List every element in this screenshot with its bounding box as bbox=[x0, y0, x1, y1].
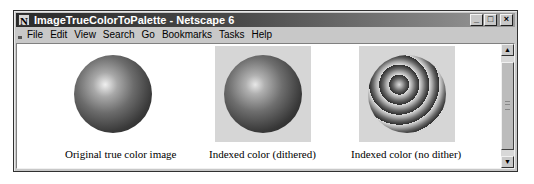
browser-window: N ImageTrueColorToPalette - Netscape 6 _… bbox=[13, 10, 518, 172]
no-dither-image bbox=[359, 46, 455, 142]
sphere-true-color bbox=[74, 55, 152, 133]
original-image bbox=[65, 46, 161, 142]
scroll-down-button[interactable]: ▼ bbox=[501, 156, 514, 168]
sphere-dithered bbox=[224, 55, 302, 133]
menu-edit[interactable]: Edit bbox=[50, 28, 67, 41]
menu-search[interactable]: Search bbox=[103, 28, 135, 41]
menu-bookmarks[interactable]: Bookmarks bbox=[162, 28, 212, 41]
caption-no-dither: Indexed color (no dither) bbox=[351, 148, 461, 160]
maximize-button[interactable]: □ bbox=[484, 14, 497, 26]
title-bar[interactable]: N ImageTrueColorToPalette - Netscape 6 _… bbox=[16, 13, 515, 27]
caption-dithered: Indexed color (dithered) bbox=[209, 148, 316, 160]
menubar-grip-icon[interactable] bbox=[18, 36, 22, 39]
menu-tasks[interactable]: Tasks bbox=[219, 28, 245, 41]
menu-go[interactable]: Go bbox=[142, 28, 155, 41]
window-title: ImageTrueColorToPalette - Netscape 6 bbox=[34, 13, 234, 27]
caption-original: Original true color image bbox=[65, 148, 177, 160]
sphere-no-dither bbox=[368, 55, 446, 133]
menu-help[interactable]: Help bbox=[251, 28, 272, 41]
thumb-grip-icon bbox=[505, 101, 510, 110]
page-content: Original true color image Indexed color … bbox=[16, 43, 515, 169]
menu-file[interactable]: File bbox=[27, 28, 43, 41]
menu-bar: File Edit View Search Go Bookmarks Tasks… bbox=[16, 28, 515, 41]
scroll-thumb[interactable] bbox=[501, 62, 514, 150]
close-button[interactable]: × bbox=[500, 14, 513, 26]
scroll-up-button[interactable]: ▲ bbox=[501, 44, 514, 56]
menu-view[interactable]: View bbox=[74, 28, 96, 41]
minimize-button[interactable]: _ bbox=[470, 14, 483, 26]
dithered-image bbox=[215, 46, 311, 142]
netscape-logo-icon: N bbox=[18, 14, 30, 26]
window-controls: _ □ × bbox=[470, 14, 513, 26]
vertical-scrollbar[interactable]: ▲ ▼ bbox=[501, 44, 514, 168]
